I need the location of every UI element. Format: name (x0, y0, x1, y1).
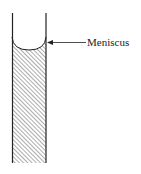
liquid-column (12, 37, 46, 163)
arrow-head-icon (47, 40, 53, 45)
meniscus-diagram (0, 0, 141, 174)
meniscus-label: Meniscus (87, 36, 129, 48)
